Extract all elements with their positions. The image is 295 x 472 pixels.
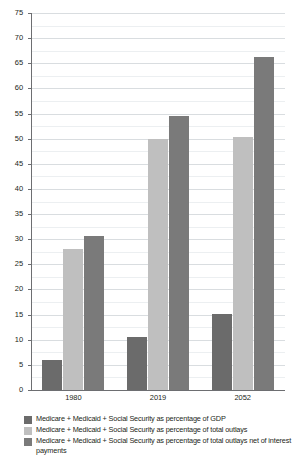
- legend-item: Medicare + Medicaid + Social Security as…: [24, 425, 292, 435]
- x-axis-tick-labels: 198020192052: [31, 393, 285, 407]
- bar: [63, 249, 83, 390]
- y-axis-tick-label: 15: [15, 311, 23, 319]
- bar-group-2019: [116, 13, 201, 390]
- bar: [254, 57, 274, 390]
- x-axis-tick-label: 2052: [200, 393, 285, 403]
- legend-item: Medicare + Medicaid + Social Security as…: [24, 414, 292, 424]
- bar-chart: 051015202530354045505560657075 198020192…: [0, 0, 295, 472]
- y-axis-tick-label: 50: [15, 135, 23, 143]
- x-axis-line: [31, 390, 285, 391]
- chart-legend: Medicare + Medicaid + Social Security as…: [24, 414, 292, 457]
- legend-swatch-icon: [24, 438, 32, 446]
- y-axis-tick-label: 20: [15, 285, 23, 293]
- legend-swatch-icon: [24, 427, 32, 435]
- bars-layer: [31, 13, 285, 390]
- bar: [212, 314, 232, 390]
- y-axis-tick-label: 25: [15, 260, 23, 268]
- bar: [84, 236, 104, 390]
- bar-group-2052: [200, 13, 285, 390]
- y-axis-tick-mark: [28, 390, 31, 391]
- y-axis-tick-label: 35: [15, 210, 23, 218]
- y-axis-tick-labels: 051015202530354045505560657075: [0, 0, 28, 404]
- x-axis-tick-label: 1980: [31, 393, 116, 403]
- y-axis-tick-label: 30: [15, 235, 23, 243]
- bar-group-1980: [31, 13, 116, 390]
- y-axis-tick-label: 60: [15, 84, 23, 92]
- y-axis-tick-label: 40: [15, 185, 23, 193]
- bar: [169, 116, 189, 390]
- y-axis-tick-label: 0: [19, 386, 23, 394]
- bar: [127, 337, 147, 390]
- legend-swatch-icon: [24, 416, 32, 424]
- legend-label: Medicare + Medicaid + Social Security as…: [36, 436, 292, 455]
- legend-item: Medicare + Medicaid + Social Security as…: [24, 436, 292, 455]
- y-axis-tick-label: 70: [15, 34, 23, 42]
- legend-label: Medicare + Medicaid + Social Security as…: [36, 414, 226, 424]
- bar: [148, 139, 168, 390]
- bar: [42, 360, 62, 390]
- bar: [233, 137, 253, 390]
- y-axis-tick-label: 45: [15, 160, 23, 168]
- y-axis-tick-label: 5: [19, 361, 23, 369]
- x-axis-tick-label: 2019: [116, 393, 201, 403]
- y-axis-tick-label: 55: [15, 110, 23, 118]
- y-axis-tick-label: 65: [15, 59, 23, 67]
- legend-label: Medicare + Medicaid + Social Security as…: [36, 425, 247, 435]
- y-axis-tick-label: 10: [15, 336, 23, 344]
- y-axis-tick-label: 75: [15, 9, 23, 17]
